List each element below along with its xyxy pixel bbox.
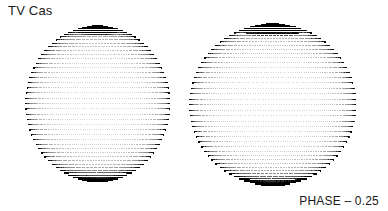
star-model-secondary bbox=[185, 19, 359, 189]
star-model-primary bbox=[21, 21, 173, 185]
dotted-sphere-mesh bbox=[21, 21, 173, 185]
phase-label: PHASE – 0.25 bbox=[299, 194, 379, 208]
dotted-sphere-mesh bbox=[185, 19, 359, 189]
page-title: TV Cas bbox=[8, 3, 53, 18]
stellar-surface-figure: TV Cas PHASE – 0.25 bbox=[0, 0, 388, 211]
